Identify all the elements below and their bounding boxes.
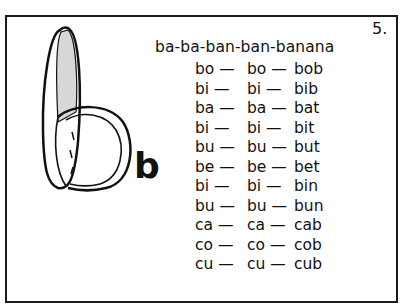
- syllable: cu —: [195, 255, 234, 273]
- syllable: co —: [247, 236, 285, 254]
- page-number: 5.: [372, 19, 387, 38]
- word: cob: [294, 236, 322, 254]
- syllable: co —: [195, 236, 233, 254]
- syllable: bi —: [195, 80, 230, 98]
- word: bit: [294, 119, 314, 137]
- syllable: bi —: [195, 177, 230, 195]
- word: cub: [294, 255, 322, 273]
- letter-b: b: [134, 148, 160, 184]
- syllable: ca —: [247, 216, 285, 234]
- syllable: bi —: [247, 177, 282, 195]
- syllable: bi —: [195, 119, 230, 137]
- syllable: ca —: [195, 216, 233, 234]
- syllable: bo —: [195, 60, 235, 78]
- syllable: bu —: [247, 197, 287, 215]
- syllable: cu —: [247, 255, 286, 273]
- word: but: [294, 138, 320, 156]
- word: bib: [294, 80, 318, 98]
- syllable: bo —: [247, 60, 287, 78]
- syllable: be —: [195, 158, 235, 176]
- word: bin: [294, 177, 318, 195]
- syllable: ba —: [247, 99, 287, 117]
- heading-banana: ba-ba-ban-ban-banana: [155, 38, 334, 56]
- syllable: bi —: [247, 119, 282, 137]
- word: bet: [294, 158, 319, 176]
- syllable: bu —: [247, 138, 287, 156]
- word: bun: [294, 197, 324, 215]
- word: bob: [294, 60, 323, 78]
- syllable: bu —: [195, 197, 235, 215]
- word: bat: [294, 99, 319, 117]
- word: cab: [294, 216, 322, 234]
- syllable: bi —: [247, 80, 282, 98]
- syllable: bu —: [195, 138, 235, 156]
- syllable: be —: [247, 158, 287, 176]
- syllable: ba —: [195, 99, 235, 117]
